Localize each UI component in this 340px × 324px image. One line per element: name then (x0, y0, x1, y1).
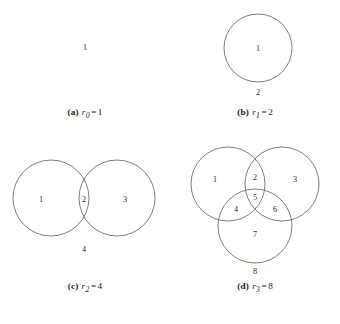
panel-a-value: 1 (98, 107, 103, 117)
region-label-c-outside: 4 (82, 245, 86, 254)
panel-c-tag: (c) (68, 281, 79, 291)
region-label-d-bottom-only: 7 (253, 230, 257, 239)
panel-a-tag: (a) (68, 107, 79, 117)
region-label-c-right-only: 3 (123, 195, 127, 204)
region-label-b-inside: 1 (256, 44, 260, 53)
panel-b-equals: = (260, 107, 268, 117)
circle-c-left (13, 160, 89, 236)
panel-d: 1 2 3 4 5 6 7 8 (d)r3=8 (170, 130, 340, 310)
panel-c-caption: (c)r2=4 (0, 282, 170, 294)
region-label-d-left-top-overlap: 2 (253, 173, 257, 182)
panel-b-diagram: 1 2 (170, 0, 340, 104)
panel-d-diagram: 1 2 3 4 5 6 7 8 (170, 130, 340, 278)
circle-d-left (191, 147, 265, 221)
region-label-d-left-only: 1 (213, 175, 217, 184)
panel-a-diagram: 1 (0, 0, 170, 104)
panel-d-caption: (d)r3=8 (170, 282, 340, 294)
panel-b-caption: (b)r1=2 (170, 108, 340, 120)
panel-d-value: 8 (268, 281, 273, 291)
region-label-d-outside: 8 (253, 267, 257, 276)
panel-b: 1 2 (b)r1=2 (170, 0, 340, 130)
panel-d-tag: (d) (237, 281, 249, 291)
panel-c: 1 2 3 4 (c)r2=4 (0, 130, 170, 310)
panel-c-equals: = (89, 281, 97, 291)
panel-a-caption: (a)r0=1 (0, 108, 170, 120)
figure-grid: 1 (a)r0=1 1 2 (b)r1=2 1 2 3 (0, 0, 340, 324)
panel-b-tag: (b) (237, 107, 249, 117)
region-label-d-center-triple: 5 (253, 193, 257, 202)
circle-d-right (245, 147, 319, 221)
region-label-d-left-bottom-overlap: 4 (234, 205, 238, 214)
panel-b-value: 2 (268, 107, 273, 117)
region-label-c-overlap: 2 (82, 195, 86, 204)
region-label-c-left-only: 1 (39, 195, 43, 204)
region-label-b-outside: 2 (256, 88, 260, 97)
panel-d-svg: 1 2 3 4 5 6 7 8 (170, 130, 340, 278)
panel-a-svg: 1 (0, 0, 170, 104)
panel-c-value: 4 (98, 281, 103, 291)
panel-a: 1 (a)r0=1 (0, 0, 170, 130)
region-label-d-right-bottom-overlap: 6 (273, 205, 277, 214)
region-label-a-plane: 1 (83, 43, 87, 52)
region-label-d-right-only: 3 (293, 175, 297, 184)
panel-c-svg: 1 2 3 4 (0, 130, 170, 278)
panel-c-diagram: 1 2 3 4 (0, 130, 170, 278)
panel-d-equals: = (260, 281, 268, 291)
panel-a-equals: = (90, 107, 98, 117)
panel-b-svg: 1 2 (170, 0, 340, 104)
circle-c-right (79, 160, 155, 236)
